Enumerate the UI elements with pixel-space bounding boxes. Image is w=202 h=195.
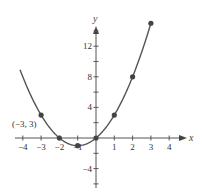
data-point: [75, 143, 80, 148]
data-point: [39, 112, 44, 117]
x-tick-label: 2: [130, 142, 135, 152]
x-tick-label: −4: [18, 142, 28, 152]
y-tick-label: 12: [83, 41, 92, 51]
data-point: [93, 135, 98, 140]
data-point: [130, 74, 135, 79]
data-point: [148, 21, 153, 26]
x-tick-label: −3: [36, 142, 46, 152]
x-tick-label: 4: [167, 142, 172, 152]
data-point: [57, 135, 62, 140]
y-tick-label: 4: [88, 102, 93, 112]
x-tick-label: −2: [55, 142, 65, 152]
chart: x y −4−3−2−11234 1284−4 (−3, 3): [0, 0, 202, 195]
y-tick-label: −4: [82, 164, 92, 174]
x-axis-label: x: [188, 132, 194, 143]
x-tick-label: 3: [149, 142, 154, 152]
y-tick-label: 8: [88, 72, 93, 82]
x-axis-arrow-icon: [179, 135, 187, 141]
y-axis-label: y: [92, 13, 98, 24]
axes: x y −4−3−2−11234 1284−4: [15, 13, 194, 188]
data-point: [112, 112, 117, 117]
y-axis-arrow-icon: [93, 26, 99, 34]
x-tick-label: 1: [112, 142, 117, 152]
point-annotation: (−3, 3): [12, 119, 37, 129]
